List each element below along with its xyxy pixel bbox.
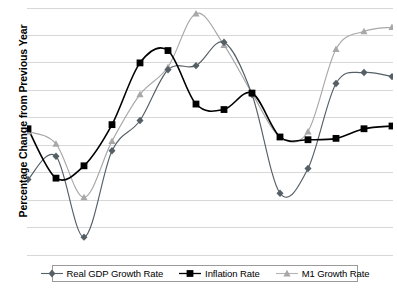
series-line <box>28 48 392 180</box>
data-point-marker <box>277 134 284 141</box>
data-point-marker <box>333 135 340 142</box>
figure-caption <box>2 292 395 299</box>
chart-legend: Real GDP Growth Rate Inflation Rate M1 G… <box>52 265 358 282</box>
data-point-marker <box>109 121 116 128</box>
data-point-marker <box>165 47 172 54</box>
data-point-marker <box>333 80 340 87</box>
diamond-marker-icon <box>41 268 63 279</box>
square-marker-icon <box>179 268 201 279</box>
data-point-marker <box>221 39 228 46</box>
data-point-marker <box>81 233 88 240</box>
legend-item-m1-growth-rate[interactable]: M1 Growth Rate <box>276 268 370 279</box>
data-point-marker <box>305 165 312 172</box>
series-lines-group <box>28 13 392 237</box>
data-point-marker <box>361 69 368 76</box>
data-point-marker <box>27 125 31 132</box>
plot-area <box>27 4 393 256</box>
data-point-marker <box>53 175 60 182</box>
legend-label: Inflation Rate <box>205 268 260 279</box>
data-point-marker <box>53 153 60 160</box>
data-point-marker <box>137 59 144 66</box>
legend-item-real-gdp-growth-rate[interactable]: Real GDP Growth Rate <box>41 268 164 279</box>
data-point-marker <box>389 123 393 130</box>
data-point-marker <box>304 128 311 134</box>
triangle-marker-icon <box>276 268 298 279</box>
data-point-marker <box>109 147 116 154</box>
chart-canvas <box>27 4 393 256</box>
legend-item-inflation-rate[interactable]: Inflation Rate <box>179 268 260 279</box>
data-point-marker <box>249 90 256 97</box>
data-point-marker <box>332 46 339 53</box>
data-point-marker <box>361 125 368 132</box>
data-point-marker <box>193 101 200 108</box>
legend-label: M1 Growth Rate <box>302 268 370 279</box>
data-point-marker <box>221 106 228 113</box>
data-point-marker <box>305 136 312 143</box>
data-point-marker <box>81 162 88 169</box>
legend-label: Real GDP Growth Rate <box>67 268 164 279</box>
series-markers-group <box>27 10 393 241</box>
series-line <box>28 13 392 197</box>
data-point-marker <box>389 73 394 80</box>
data-point-marker <box>108 138 115 145</box>
chart-figure: Percentage Change from Previous Year Rea… <box>0 0 397 299</box>
data-point-marker <box>388 24 393 31</box>
